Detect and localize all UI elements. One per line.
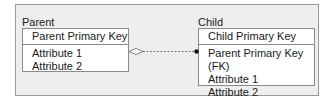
relationship-connector[interactable]	[0, 0, 336, 103]
hollow-diamond-icon	[129, 49, 143, 55]
filled-dot-icon	[194, 49, 198, 53]
